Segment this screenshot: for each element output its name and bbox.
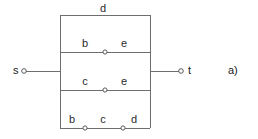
diagram-edges <box>26 15 179 128</box>
terminal-label-s: s <box>13 65 19 76</box>
edge-label-top-d: d <box>93 3 113 14</box>
figure-canvas: d b e c e b c d s t a) <box>0 0 258 139</box>
edge-label-bottom-d: d <box>124 114 144 125</box>
node-bottom-right <box>121 126 125 130</box>
edge-label-middle-c: c <box>75 76 95 87</box>
terminal-label-t: t <box>188 65 191 76</box>
edge-label-upper-b: b <box>75 38 95 49</box>
figure-caption: a) <box>228 65 238 76</box>
node-upper-middle <box>103 50 107 54</box>
edge-label-bottom-c: c <box>93 114 113 125</box>
node-bottom-left <box>83 126 87 130</box>
terminal-node-t <box>179 69 184 74</box>
edge-label-middle-e: e <box>114 76 134 87</box>
edge-label-upper-e: e <box>114 38 134 49</box>
terminal-node-s <box>22 69 27 74</box>
node-middle-middle <box>103 88 107 92</box>
edge-label-bottom-b: b <box>62 114 82 125</box>
